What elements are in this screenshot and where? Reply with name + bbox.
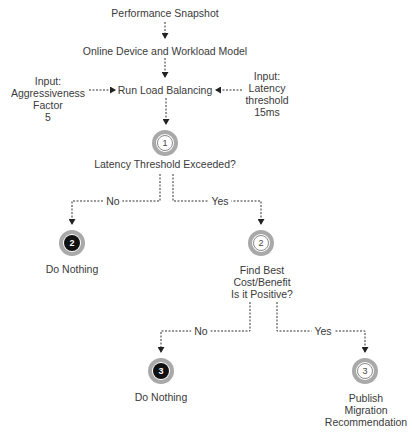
branch-label-no: No: [103, 195, 122, 207]
publish-line: Recommendation: [325, 416, 407, 428]
decision-line: Cost/Benefit: [231, 276, 293, 288]
step-number: 3: [357, 363, 373, 379]
step-2-icon: 2: [248, 230, 274, 256]
node-workload-model: Online Device and Workload Model: [83, 45, 247, 57]
step-1-icon: 1: [152, 130, 178, 156]
input-left-value: 5: [11, 111, 85, 123]
input-right-value: 15ms: [245, 106, 288, 118]
node-do-nothing: Do Nothing: [135, 391, 188, 403]
input-right-line: Input:: [245, 70, 288, 82]
branch-label-no: No: [191, 325, 210, 337]
node-run-load-balancing: Run Load Balancing: [118, 84, 213, 96]
connector-layer: [0, 0, 412, 435]
input-aggressiveness: Input: Aggressiveness Factor 5: [11, 75, 85, 123]
decision-latency-exceeded: Latency Threshold Exceeded?: [94, 158, 236, 170]
node-do-nothing: Do Nothing: [46, 263, 99, 275]
step-3-icon: 3: [352, 358, 378, 384]
input-left-line: Factor: [11, 99, 85, 111]
decision-line: Find Best: [231, 264, 293, 276]
input-left-line: Aggressiveness: [11, 87, 85, 99]
node-performance-snapshot: Performance Snapshot: [111, 7, 218, 19]
publish-line: Publish: [325, 392, 407, 404]
input-left-line: Input:: [11, 75, 85, 87]
input-latency-threshold: Input: Latency threshold 15ms: [245, 70, 288, 118]
input-right-line: threshold: [245, 94, 288, 106]
step-number: 3: [153, 363, 169, 379]
step-number: 2: [253, 235, 269, 251]
branch-label-yes: Yes: [208, 195, 231, 207]
step-number: 1: [157, 135, 173, 151]
node-publish-recommendation: Publish Migration Recommendation: [325, 392, 407, 428]
decision-cost-benefit: Find Best Cost/Benefit Is it Positive?: [231, 264, 293, 300]
publish-line: Migration: [325, 404, 407, 416]
decision-line: Is it Positive?: [231, 288, 293, 300]
input-right-line: Latency: [245, 82, 288, 94]
step-3-terminal-icon: 3: [148, 358, 174, 384]
step-2-terminal-icon: 2: [59, 230, 85, 256]
step-number: 2: [64, 235, 80, 251]
branch-label-yes: Yes: [311, 325, 334, 337]
